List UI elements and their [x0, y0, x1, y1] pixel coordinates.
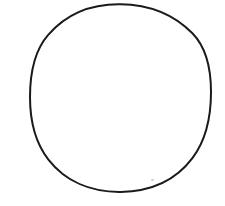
figure-svg — [0, 0, 225, 206]
drawing-canvas — [0, 0, 225, 206]
speck-artifact — [151, 179, 154, 181]
